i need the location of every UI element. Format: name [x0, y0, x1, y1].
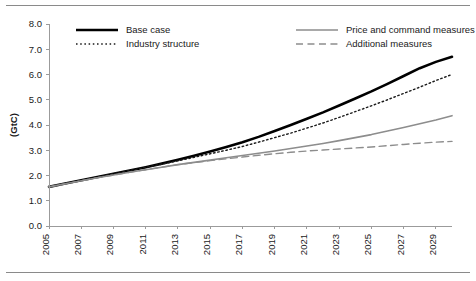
series-line-base-case	[49, 57, 452, 187]
legend-label-price-and-command-measures: Price and command measures	[346, 24, 475, 35]
x-axis-tick-label: 2013	[169, 234, 180, 255]
y-axis-title-label: (GtC)	[8, 113, 19, 137]
y-axis-tick-label: 5.0	[29, 94, 42, 105]
plot-layer	[49, 57, 452, 187]
y-axis-tick-label: 1.0	[29, 195, 42, 206]
x-axis-tick-label: 2019	[266, 234, 277, 255]
y-axis-tick-label: 3.0	[29, 145, 42, 156]
x-axis-tick-label: 2017	[233, 234, 244, 255]
y-axis-tick-label: 6.0	[29, 69, 42, 80]
x-axis-tick-label: 2027	[395, 234, 406, 255]
y-axis-tick-label: 0.0	[29, 220, 42, 231]
x-axis-tick-label: 2011	[137, 234, 148, 254]
y-axis-title: (GtC)	[8, 113, 19, 137]
chart-legend: Base casePrice and command measuresIndus…	[76, 24, 475, 49]
legend-label-base-case: Base case	[126, 24, 170, 35]
x-axis-tick-label: 2005	[40, 234, 51, 255]
series-line-additional-measures	[49, 141, 452, 186]
y-axis-tick-label: 8.0	[29, 18, 42, 29]
x-axis-tick-label: 2029	[427, 234, 438, 255]
x-axis-tick-label: 2021	[298, 234, 309, 255]
y-axis-tick-label: 7.0	[29, 44, 42, 55]
legend-label-industry-structure: Industry structure	[126, 38, 199, 49]
x-axis-tick-label: 2023	[330, 234, 341, 255]
line-chart: 0.01.02.03.04.05.06.07.08.0 200520072009…	[0, 0, 476, 281]
chart-figure: 0.01.02.03.04.05.06.07.08.0 200520072009…	[0, 0, 476, 281]
legend-label-additional-measures: Additional measures	[346, 38, 432, 49]
axes-layer	[46, 24, 452, 229]
y-axis-tick-label: 4.0	[29, 119, 42, 130]
x-axis-tick-label: 2025	[362, 234, 373, 255]
x-axis-tick-label: 2009	[104, 234, 115, 255]
x-axis-tick-label: 2015	[201, 234, 212, 255]
x-axis-tick-labels: 2005200720092011201320152017201920212023…	[40, 234, 438, 255]
y-axis-tick-label: 2.0	[29, 170, 42, 181]
y-axis-tick-labels: 0.01.02.03.04.05.06.07.08.0	[29, 18, 42, 231]
x-axis-tick-label: 2007	[72, 234, 83, 255]
